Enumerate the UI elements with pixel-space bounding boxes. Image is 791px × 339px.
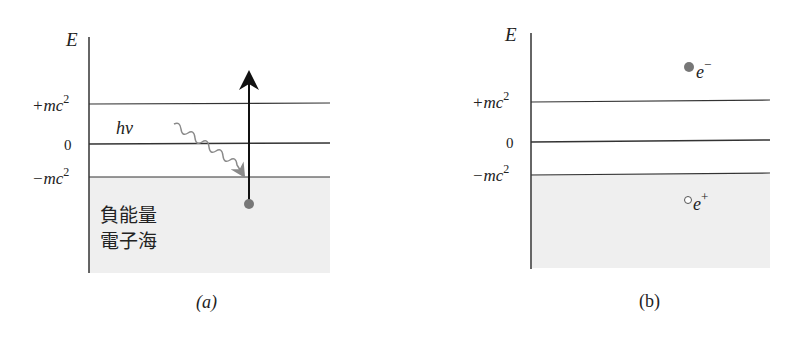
panel-b: E +mc2 0 −mc2 e− e+ (b) bbox=[472, 24, 770, 312]
electron-in-sea-dot bbox=[244, 199, 254, 209]
level-label-plus-mc2: +mc2 bbox=[472, 89, 509, 112]
level-label-zero: 0 bbox=[506, 135, 514, 151]
level-line-plus-mc2 bbox=[531, 100, 770, 102]
caption-a: (a) bbox=[196, 292, 217, 313]
electron-dot bbox=[684, 62, 694, 72]
level-line-zero bbox=[531, 140, 770, 142]
sea-label-line2: 電子海 bbox=[100, 230, 157, 252]
negative-energy-sea bbox=[532, 174, 770, 268]
photon-wavy-arrow bbox=[174, 123, 242, 173]
level-label-minus-mc2: −mc2 bbox=[472, 162, 509, 185]
level-label-zero: 0 bbox=[64, 137, 72, 153]
caption-b: (b) bbox=[639, 291, 660, 312]
photon-label: hν bbox=[116, 118, 133, 138]
sea-label-line1: 負能量 bbox=[100, 204, 157, 226]
axis-label-e: E bbox=[65, 29, 78, 50]
level-line-zero bbox=[89, 143, 330, 144]
level-label-minus-mc2: −mc2 bbox=[32, 165, 69, 188]
level-label-plus-mc2: +mc2 bbox=[32, 92, 69, 115]
dirac-sea-diagram: E +mc2 0 −mc2 hν 負能量 電子海 (a) E +mc2 0 −m… bbox=[0, 0, 791, 339]
panel-a: E +mc2 0 −mc2 hν 負能量 電子海 (a) bbox=[32, 29, 330, 313]
positron-hole-circle bbox=[685, 197, 692, 204]
electron-label: e− bbox=[696, 57, 711, 82]
level-line-plus-mc2 bbox=[89, 103, 330, 104]
axis-label-e: E bbox=[504, 24, 517, 45]
